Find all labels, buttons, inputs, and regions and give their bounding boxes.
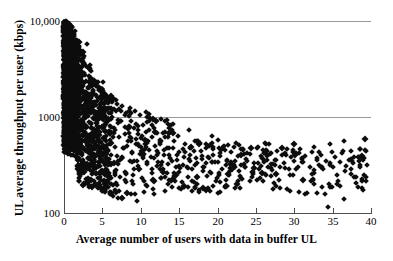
x-tick-30: [294, 208, 295, 213]
x-tick-label-35: 35: [318, 215, 348, 227]
x-tick-label-25: 25: [241, 215, 271, 227]
x-tick-10: [141, 208, 142, 213]
x-tick-25: [256, 208, 257, 213]
x-tick-40: [371, 208, 372, 213]
x-tick-label-30: 30: [279, 215, 309, 227]
x-tick-label-10: 10: [126, 215, 156, 227]
x-tick-label-15: 15: [164, 215, 194, 227]
x-axis-line: [64, 213, 372, 214]
x-tick-15: [179, 208, 180, 213]
x-tick-5: [102, 208, 103, 213]
x-tick-label-5: 5: [87, 215, 117, 227]
x-tick-20: [218, 208, 219, 213]
x-tick-label-20: 20: [203, 215, 233, 227]
x-tick-label-40: 40: [356, 215, 386, 227]
y-tick-100: [64, 213, 69, 214]
gridline-y-10000: [64, 21, 371, 22]
y-axis-title: UL average throughput per user (kbps): [13, 18, 25, 218]
chart-figure: 0510152025303540 100100010,000 Average n…: [0, 0, 393, 261]
x-axis-title: Average number of users with data in buf…: [0, 233, 393, 245]
x-tick-35: [333, 208, 334, 213]
